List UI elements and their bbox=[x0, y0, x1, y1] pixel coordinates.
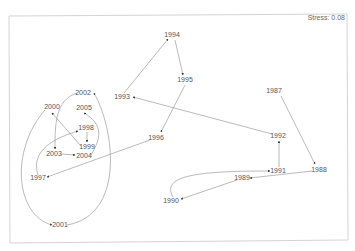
node-1998: 1998 bbox=[78, 124, 94, 131]
node-1992: 1992 bbox=[270, 132, 286, 139]
edge-1994-1995 bbox=[175, 40, 183, 75]
node-1999: 1999 bbox=[79, 143, 95, 150]
node-2001: 2001 bbox=[52, 221, 68, 228]
node-2002: 2002 bbox=[75, 89, 91, 96]
edge-1990-1991 bbox=[171, 171, 270, 197]
edge-1993-1994 bbox=[124, 39, 168, 93]
edge-1989-1990 bbox=[181, 180, 237, 199]
edge-2003-2004 bbox=[61, 154, 75, 155]
edge-2002-2003 bbox=[55, 93, 77, 149]
edge-2001-2002 bbox=[67, 93, 110, 225]
node-1987: 1987 bbox=[266, 87, 282, 94]
node-1993: 1993 bbox=[114, 93, 130, 100]
node-1995: 1995 bbox=[177, 76, 193, 83]
edge-1992-1993 bbox=[133, 97, 272, 134]
edge-1987-1988 bbox=[281, 96, 315, 164]
year-labels: 1987 1988 1989 1990 1991 1992 1993 1994 … bbox=[30, 31, 327, 228]
node-1991: 1991 bbox=[270, 167, 286, 174]
edge-1995-1996 bbox=[161, 85, 185, 132]
node-1990: 1990 bbox=[163, 197, 179, 204]
node-2004: 2004 bbox=[76, 152, 92, 159]
node-1988: 1988 bbox=[311, 166, 327, 173]
node-1989: 1989 bbox=[234, 174, 250, 181]
node-2000: 2000 bbox=[44, 103, 60, 110]
node-1994: 1994 bbox=[164, 31, 180, 38]
stress-label: Stress: 0.08 bbox=[308, 14, 345, 21]
node-1996: 1996 bbox=[148, 134, 164, 141]
node-1997: 1997 bbox=[30, 174, 46, 181]
node-2005: 2005 bbox=[76, 104, 92, 111]
edge-1996-1997 bbox=[47, 140, 150, 177]
mds-trajectory-plot: Stress: 0.08 1987 1988 1989 1990 1991 19… bbox=[0, 0, 355, 251]
node-2003: 2003 bbox=[46, 150, 62, 157]
edge-1999-2000 bbox=[52, 113, 81, 146]
